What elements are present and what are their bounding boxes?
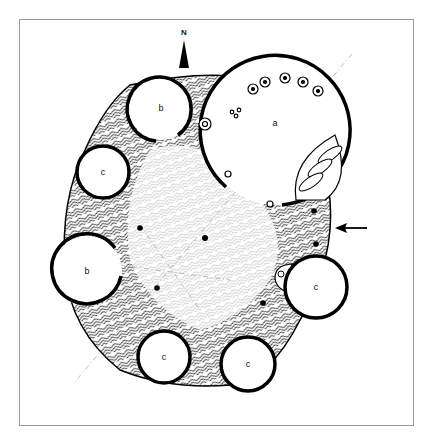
room-b-north: b xyxy=(127,76,193,141)
entrance-arrow-icon xyxy=(335,223,367,233)
north-arrow: N xyxy=(179,28,189,68)
room-a: a xyxy=(199,55,352,207)
room-b-west-label: b xyxy=(84,266,89,276)
north-label: N xyxy=(181,28,187,37)
site-plan: N a b c b xyxy=(0,0,427,440)
room-c-south-east-label: c xyxy=(246,359,251,369)
room-c-south-west-label: c xyxy=(162,352,167,362)
room-b-west: b xyxy=(52,234,122,306)
north-arrow-icon xyxy=(179,40,189,68)
room-b-north-label: b xyxy=(158,103,163,113)
room-c-east-label: c xyxy=(314,282,319,292)
room-c-south-east: c xyxy=(221,337,275,391)
room-c-west: c xyxy=(77,146,129,198)
room-c-west-label: c xyxy=(101,167,106,177)
room-c-south-west: c xyxy=(138,331,190,383)
room-a-label: a xyxy=(272,118,277,128)
